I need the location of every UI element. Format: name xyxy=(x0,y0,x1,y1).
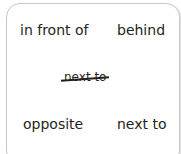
word-next-to: next to xyxy=(117,116,167,132)
word-behind: behind xyxy=(117,22,165,38)
crossed-out-word: next to xyxy=(64,70,106,84)
word-in-front-of: in front of xyxy=(20,22,88,38)
word-opposite: opposite xyxy=(23,116,83,132)
